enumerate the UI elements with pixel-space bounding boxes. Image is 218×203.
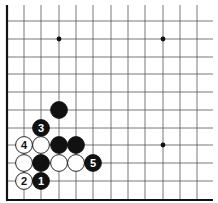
black-stone-5: 5 bbox=[85, 155, 102, 172]
stone-circle bbox=[51, 102, 68, 119]
black-stone bbox=[51, 102, 68, 119]
white-stone-4: 4 bbox=[16, 137, 33, 154]
go-board: 34521 bbox=[0, 0, 218, 203]
white-stone bbox=[33, 137, 50, 154]
move-number: 1 bbox=[38, 175, 44, 187]
stone-circle bbox=[16, 155, 33, 172]
white-stone bbox=[68, 155, 85, 172]
stone-circle bbox=[33, 137, 50, 154]
stone-circle bbox=[33, 155, 50, 172]
move-number: 4 bbox=[21, 139, 28, 151]
white-stone bbox=[51, 155, 68, 172]
white-stone-2: 2 bbox=[16, 173, 33, 190]
black-stone bbox=[68, 137, 85, 154]
black-stone-1: 1 bbox=[33, 173, 50, 190]
move-number: 3 bbox=[38, 122, 44, 134]
black-stone bbox=[33, 155, 50, 172]
stone-circle bbox=[68, 155, 85, 172]
white-stone bbox=[16, 155, 33, 172]
black-stone-3: 3 bbox=[33, 120, 50, 137]
star-point bbox=[161, 143, 166, 148]
move-number: 5 bbox=[90, 157, 96, 169]
move-number: 2 bbox=[21, 175, 27, 187]
stone-circle bbox=[51, 155, 68, 172]
grid-lines bbox=[6, 5, 213, 201]
black-stone bbox=[51, 137, 68, 154]
star-point bbox=[57, 37, 62, 42]
stone-circle bbox=[68, 137, 85, 154]
go-board-diagram: 34521 bbox=[0, 0, 218, 203]
star-point bbox=[161, 37, 166, 42]
stones: 34521 bbox=[16, 102, 102, 190]
stone-circle bbox=[51, 137, 68, 154]
